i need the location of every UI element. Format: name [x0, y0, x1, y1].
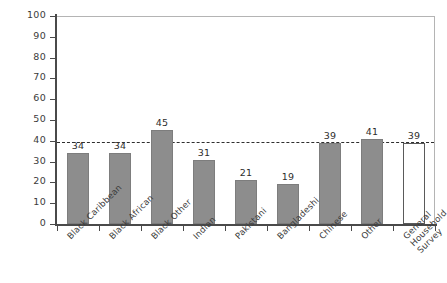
x-axis-tick-mark [267, 226, 268, 231]
y-axis-tick-mark [50, 120, 56, 121]
y-axis-tick: 100 [0, 16, 55, 17]
bar-value-label: 41 [351, 126, 393, 137]
bar-value-label: 39 [309, 130, 351, 141]
y-axis-tick-mark [50, 37, 56, 38]
y-axis-tick: 90 [0, 37, 55, 38]
bar-value-label: 45 [141, 117, 183, 128]
y-axis-tick-mark [50, 99, 56, 100]
x-axis-tick-mark [225, 226, 226, 231]
x-axis-tick-mark [99, 226, 100, 231]
x-axis-tick-mark [141, 226, 142, 231]
y-axis-tick: 40 [0, 141, 55, 142]
y-axis-tick: 70 [0, 78, 55, 79]
bar-value-label: 34 [57, 140, 99, 151]
x-axis-tick-mark [393, 226, 394, 231]
y-axis-tick-mark [50, 182, 56, 183]
y-axis-tick-mark [50, 58, 56, 59]
y-axis-tick: 10 [0, 203, 55, 204]
bar-chart-figure: Percentage 0102030405060708090100 343445… [0, 0, 447, 283]
y-axis-tick: 60 [0, 99, 55, 100]
y-axis-tick-mark [50, 224, 56, 225]
x-axis-tick-mark [351, 226, 352, 231]
y-axis-tick-mark [50, 162, 56, 163]
y-axis-tick-label: 30 [33, 155, 46, 166]
y-axis-tick-label: 10 [33, 196, 46, 207]
x-axis-tick-mark [309, 226, 310, 231]
y-axis-tick-label: 100 [27, 9, 46, 20]
y-axis-tick: 50 [0, 120, 55, 121]
y-axis-tick-mark [50, 141, 56, 142]
y-axis-tick-label: 70 [33, 71, 46, 82]
y-axis-tick: 80 [0, 58, 55, 59]
y-axis-tick-mark [50, 16, 56, 17]
x-axis-tick-mark [183, 226, 184, 231]
y-axis-tick-mark [50, 203, 56, 204]
y-axis-tick-label: 20 [33, 175, 46, 186]
x-axis-tick-mark [57, 226, 58, 231]
y-axis-tick-label: 60 [33, 92, 46, 103]
y-axis-title: Percentage [12, 0, 28, 76]
y-axis-tick-mark [50, 78, 56, 79]
y-axis-tick-label: 50 [33, 113, 46, 124]
bar-slot: 34 [67, 16, 89, 224]
y-axis-tick: 0 [0, 224, 55, 225]
bar-value-label: 39 [393, 130, 435, 141]
y-axis-tick-label: 80 [33, 51, 46, 62]
bar-value-label: 34 [99, 140, 141, 151]
y-axis-tick: 30 [0, 162, 55, 163]
y-axis-tick: 20 [0, 182, 55, 183]
y-axis-tick-label: 40 [33, 134, 46, 145]
y-axis-tick-label: 0 [40, 217, 46, 228]
y-axis-tick-label: 90 [33, 30, 46, 41]
